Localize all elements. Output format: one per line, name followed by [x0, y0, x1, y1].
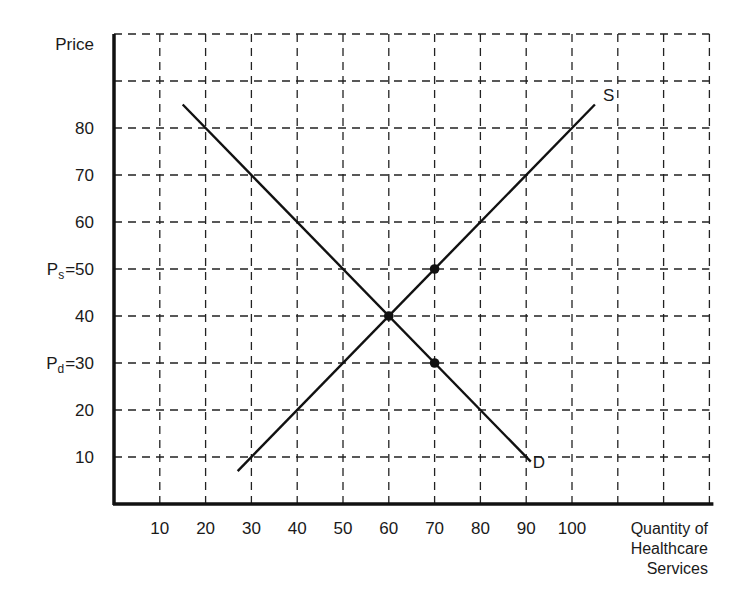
x-axis-title-line: Quantity of	[631, 520, 709, 537]
x-axis-title-line: Healthcare	[631, 540, 708, 557]
y-tick-label: 10	[75, 448, 94, 467]
axis-labels: SD1020Pd=3040Ps=50607080Price10203040506…	[46, 35, 708, 577]
y-tick-label: 60	[75, 213, 94, 232]
x-tick-label: 10	[150, 519, 169, 538]
y-axis-title: Price	[55, 35, 94, 54]
supply-curve	[238, 105, 595, 472]
supply-demand-chart: SD1020Pd=3040Ps=50607080Price10203040506…	[0, 0, 736, 603]
data-point	[384, 311, 394, 321]
x-axis-title-line: Services	[647, 560, 708, 577]
x-tick-label: 100	[558, 519, 586, 538]
supply-label: S	[603, 86, 614, 105]
grid-lines	[114, 34, 709, 504]
y-tick-label-ps: Ps=50	[47, 260, 94, 282]
x-tick-label: 20	[196, 519, 215, 538]
y-tick-label: 20	[75, 401, 94, 420]
y-tick-label: 70	[75, 166, 94, 185]
x-tick-label: 50	[334, 519, 353, 538]
data-point	[430, 264, 440, 274]
y-tick-label-pd: Pd=30	[46, 354, 94, 376]
y-tick-label: 40	[75, 307, 94, 326]
demand-label: D	[533, 453, 545, 472]
y-tick-label: 80	[75, 119, 94, 138]
x-tick-label: 30	[242, 519, 261, 538]
x-tick-label: 70	[425, 519, 444, 538]
x-tick-label: 90	[517, 519, 536, 538]
x-tick-label: 40	[288, 519, 307, 538]
x-tick-label: 60	[379, 519, 398, 538]
demand-curve	[183, 105, 531, 462]
data-point	[430, 358, 440, 368]
x-tick-label: 80	[471, 519, 490, 538]
